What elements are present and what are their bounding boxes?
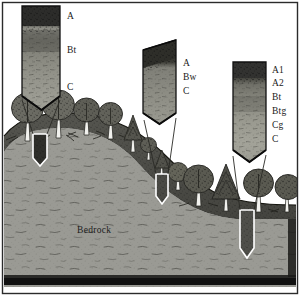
block-right-edge	[288, 219, 296, 277]
bedrock-label: Bedrock	[77, 225, 111, 235]
horizon-label-summit-C: C	[67, 82, 74, 92]
soil-pit-backslope	[156, 174, 168, 204]
horizon-label-summit-A: A	[67, 11, 74, 21]
horizon-label-backslope-Bw: Bw	[183, 72, 197, 82]
horizon-label-footslope-Cg: Cg	[272, 120, 284, 130]
horizon-label-footslope-C: C	[272, 134, 279, 144]
horizon-label-backslope-A: A	[183, 58, 190, 68]
horizon-label-summit-Bt: Bt	[67, 45, 77, 55]
soil-pit-footslope	[240, 210, 254, 258]
soil-pit-summit	[33, 134, 47, 166]
horizon-label-footslope-A2: A2	[272, 78, 284, 88]
horizon-label-footslope-Bt: Bt	[272, 92, 282, 102]
block-base-edge	[4, 275, 296, 285]
soil-catena-figure: A Bt C A Bw C	[0, 0, 301, 297]
horizon-label-footslope-Btg: Btg	[272, 106, 286, 116]
horizon-label-footslope-A1: A1	[272, 65, 284, 75]
horizon-label-backslope-C: C	[183, 86, 190, 96]
